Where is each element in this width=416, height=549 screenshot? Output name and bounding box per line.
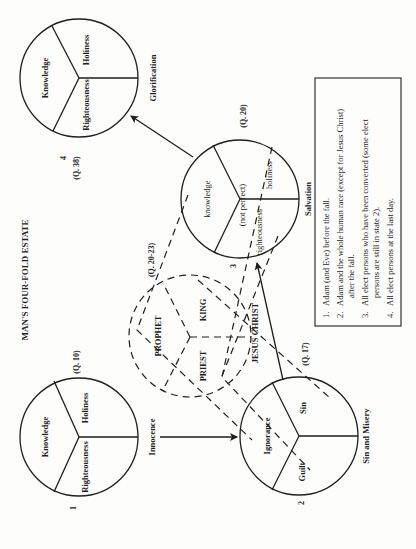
legend-item-3-number: 3. [360, 312, 370, 318]
state-4-number: 4 [59, 156, 68, 160]
diagram-canvas: MAN'S FOUR-FOLD ESTATE Knowledge Holines… [0, 0, 416, 549]
state-2-question-ref: (Q. 17) [301, 342, 310, 366]
state-2-number: 2 [297, 501, 306, 505]
state-3-question-ref: (Q. 20) [239, 104, 248, 128]
state-2-segment-ignorance: Ignorance [262, 417, 272, 454]
state-1-innocence: Knowledge Holiness Righteousness Innocen… [20, 350, 157, 510]
office-priest: PRIEST [198, 350, 208, 381]
state-1-segment-holiness: Holiness [80, 392, 90, 423]
mediator-question-ref: (Q. 20-23) [147, 243, 156, 278]
legend-item-2-text-line-2: after the fall. [346, 254, 356, 298]
legend-item-1-number: 1. [321, 312, 331, 318]
state-1-label: Innocence [147, 418, 157, 455]
state-2-label: Sin and Misery [361, 408, 371, 464]
legend-item-1-text: Adam (and Eve) before the fall. [321, 198, 331, 306]
state-2-segment-sin: Sin [298, 402, 308, 414]
state-3-salvation: knowledge holiness righteousness (not pe… [181, 104, 313, 268]
state-2-segment-guilt: Guilt [297, 462, 307, 481]
diagram-title: MAN'S FOUR-FOLD ESTATE [20, 219, 30, 340]
office-king: KING [198, 298, 208, 321]
legend-item-3-text-line-2: persons are still in state 2). [371, 207, 381, 298]
state-1-number: 1 [69, 506, 78, 510]
arrow-sin-to-salvation [257, 263, 283, 380]
state-4-segment-knowledge: Knowledge [40, 57, 50, 98]
state-1-segment-knowledge: Knowledge [40, 416, 50, 457]
legend-item-3-text-line-1: All elect persons who have been converte… [360, 118, 370, 306]
legend-box: 1. Adam (and Eve) before the fall. 2. Ad… [315, 78, 401, 326]
state-3-segment-righteousness: righteousness [254, 209, 264, 255]
legend-item-4-text: All elect persons at the last day. [385, 198, 395, 306]
mediator-jesus-christ: PROPHET KING PRIEST JESUS CHRIST (Q. 20-… [129, 243, 260, 397]
state-3-number: 3 [229, 264, 238, 268]
state-1-segment-righteousness: Righteousness [80, 441, 90, 493]
state-3-note-not-perfect: (not perfect) [237, 184, 247, 226]
state-4-segment-righteousness: Righteousness [81, 79, 91, 131]
state-3-segment-knowledge: knowledge [202, 180, 212, 218]
mediator-label: JESUS CHRIST [250, 303, 260, 364]
state-4-label: Glorification [148, 54, 158, 101]
legend-item-2-number: 2. [335, 312, 345, 318]
state-2-sin-and-misery: Ignorance Sin Guilt Sin and Misery 2 (Q.… [240, 342, 371, 505]
arrow-salvation-to-glorification [131, 116, 193, 157]
legend-item-2-text-line-1: Adam and the whole human race (except fo… [335, 109, 345, 306]
legend-item-4-number: 4. [385, 312, 395, 318]
four-fold-estate-diagram: MAN'S FOUR-FOLD ESTATE Knowledge Holines… [0, 0, 416, 549]
dashed-connectors [137, 147, 330, 470]
state-4-glorification: Knowledge Holiness Righteousness Glorifi… [20, 19, 158, 180]
state-3-label: Salvation [303, 182, 313, 216]
state-4-segment-holiness: Holiness [81, 34, 91, 65]
state-4-question-ref: (Q. 38) [72, 156, 81, 180]
state-1-question-ref: (Q. 10) [72, 350, 81, 374]
